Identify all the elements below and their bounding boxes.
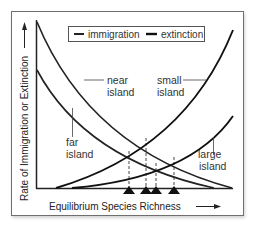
small-island-label-line2: island — [157, 86, 185, 98]
triangle-marker-icon — [123, 186, 135, 194]
island-biogeography-diagram: immigration extinction near island small… — [0, 0, 256, 229]
large-island-label-line2: island — [199, 160, 227, 172]
large-island-label-line1: large — [198, 148, 222, 160]
y-axis-arrow-icon — [22, 22, 27, 48]
far-island-label-line2: island — [66, 148, 94, 160]
x-axis-label: Equilibrium Species Richness — [49, 201, 181, 212]
far-island-label-line1: far — [66, 136, 79, 148]
small-island-label-line1: small — [157, 74, 182, 86]
triangle-marker-icon — [140, 186, 152, 194]
near-island-label-line1: near — [107, 74, 129, 86]
near-island-label-line2: island — [107, 86, 135, 98]
triangle-marker-icon — [150, 186, 162, 194]
legend-extinction-label: extinction — [161, 29, 203, 40]
y-axis-label: Rate of Immigration or Extinction — [19, 56, 30, 201]
triangle-marker-icon — [168, 186, 180, 194]
equilibrium-markers — [123, 186, 180, 194]
legend: immigration extinction — [69, 27, 205, 42]
legend-immigration-label: immigration — [88, 29, 140, 40]
x-axis-arrow-icon — [196, 204, 221, 209]
